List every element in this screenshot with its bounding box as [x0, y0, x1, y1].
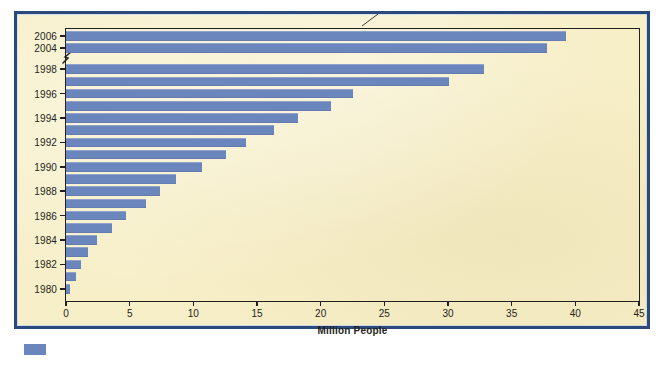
y-tick-label-1994: 1994	[34, 113, 57, 124]
x-tick-label-5: 5	[127, 308, 133, 319]
y-tick-label-1992: 1992	[34, 137, 57, 148]
y-tick-1994	[60, 117, 66, 119]
y-tick-label-1986: 1986	[34, 210, 57, 221]
bar-1987	[66, 199, 146, 209]
x-tick-30	[447, 301, 449, 306]
bar-1998	[66, 64, 484, 74]
x-tick-45	[638, 301, 640, 306]
bar-1990	[66, 162, 202, 172]
y-tick-label-1984: 1984	[34, 235, 57, 246]
bar-1982	[66, 260, 81, 270]
x-tick-label-15: 15	[251, 308, 262, 319]
x-tick-15	[256, 301, 258, 306]
x-tick-20	[320, 301, 322, 306]
chart-panel: Million People 2006200419981996199419921…	[14, 11, 650, 329]
y-tick-1996	[60, 93, 66, 95]
y-tick-1992	[60, 142, 66, 144]
y-tick-1986	[60, 215, 66, 217]
y-tick-1990	[60, 166, 66, 168]
x-tick-40	[575, 301, 577, 306]
y-tick-label-2006: 2006	[34, 30, 57, 41]
plot-area: Million People 2006200419981996199419921…	[65, 28, 640, 302]
x-tick-0	[65, 301, 67, 306]
y-tick-2004	[60, 47, 66, 49]
y-tick-label-1990: 1990	[34, 161, 57, 172]
bar-1992	[66, 138, 246, 148]
bar-1988	[66, 186, 160, 196]
bar-2006	[66, 31, 566, 41]
y-tick-label-1998: 1998	[34, 64, 57, 75]
legend-swatch	[24, 344, 46, 355]
y-tick-1982	[60, 264, 66, 266]
x-tick-10	[193, 301, 195, 306]
y-tick-label-1980: 1980	[34, 283, 57, 294]
bar-1984	[66, 235, 97, 245]
bar-2004	[66, 43, 547, 53]
y-tick-label-1996: 1996	[34, 88, 57, 99]
x-tick-label-40: 40	[570, 308, 581, 319]
x-tick-25	[384, 301, 386, 306]
bar-1996	[66, 89, 353, 99]
bar-1997	[66, 77, 449, 87]
y-tick-1980	[60, 288, 66, 290]
bar-1989	[66, 174, 176, 184]
bar-1980	[66, 284, 70, 294]
y-tick-1988	[60, 190, 66, 192]
bar-1994	[66, 113, 298, 123]
bar-1995	[66, 101, 331, 111]
x-tick-label-10: 10	[188, 308, 199, 319]
bar-1981	[66, 272, 76, 282]
x-axis-title: Million People	[317, 325, 387, 336]
x-tick-label-20: 20	[315, 308, 326, 319]
bar-1993	[66, 125, 274, 135]
x-tick-5	[129, 301, 131, 306]
x-tick-label-0: 0	[63, 308, 69, 319]
x-tick-label-35: 35	[506, 308, 517, 319]
x-tick-35	[511, 301, 513, 306]
bar-1985	[66, 223, 112, 233]
bar-1983	[66, 247, 88, 257]
bar-1986	[66, 211, 126, 221]
y-tick-1998	[60, 68, 66, 70]
x-tick-label-30: 30	[442, 308, 453, 319]
y-tick-1984	[60, 239, 66, 241]
x-tick-label-25: 25	[379, 308, 390, 319]
bar-1991	[66, 150, 226, 160]
y-tick-label-2004: 2004	[34, 43, 57, 54]
x-tick-label-45: 45	[633, 308, 644, 319]
y-tick-label-1982: 1982	[34, 259, 57, 270]
y-tick-2006	[60, 35, 66, 37]
y-tick-label-1988: 1988	[34, 186, 57, 197]
